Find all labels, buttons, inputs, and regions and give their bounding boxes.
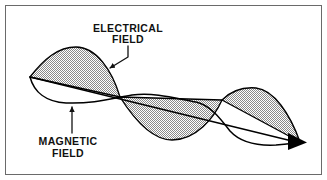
figure-background [0,0,327,180]
figure-root: ELECTRICAL FIELD MAGNETIC FIELD [0,0,327,180]
magnetic-field-label-line1: MAGNETIC [39,135,98,147]
electromagnetic-wave-diagram: ELECTRICAL FIELD MAGNETIC FIELD [0,0,327,180]
electrical-field-label-line2: FIELD [112,33,144,45]
magnetic-field-label-line2: FIELD [52,147,84,159]
